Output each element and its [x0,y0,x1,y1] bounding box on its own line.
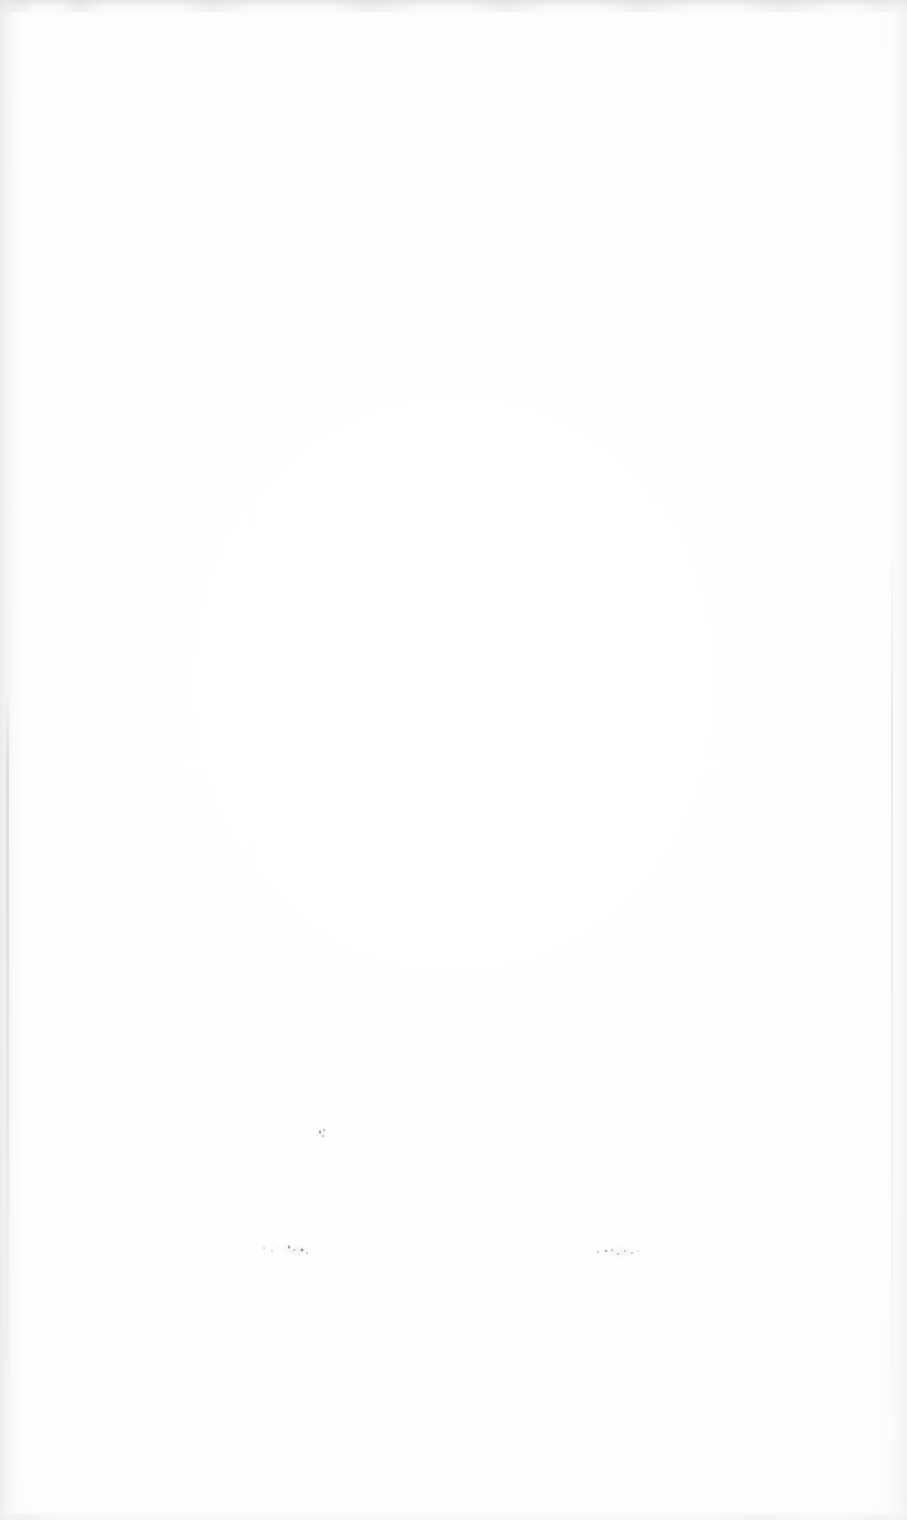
scan-edge-top-speckle [0,0,907,12]
ink-smudge-right [591,1240,661,1266]
scan-edge-right [877,0,907,1520]
scan-edge-top [0,0,907,16]
scan-edge-right-streak [891,540,893,1420]
scan-edge-left-streak [6,690,9,1390]
clipped-text-line-left [258,1508,418,1520]
ink-speck-tiny [364,1134,372,1142]
clipped-text-line-right [525,1508,710,1520]
paper-surface [0,0,907,1520]
scan-edge-bottom-speckle [0,1514,907,1520]
scanned-page [0,0,907,1520]
scan-edge-bottom [0,1502,907,1520]
ink-smudge-left [258,1237,320,1263]
scan-edge-left [0,0,26,1520]
ink-speck-upper [312,1124,336,1146]
